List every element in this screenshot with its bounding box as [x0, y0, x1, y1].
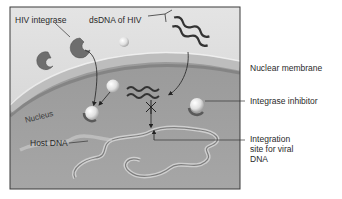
label-hiv-integrase: HIV integrase — [15, 15, 67, 25]
hiv-integrase-diagram: HIV integrase dsDNA of HIV Nuclear membr… — [0, 0, 342, 199]
label-integrase-inhibitor: Integrase inhibitor — [250, 96, 318, 106]
label-integration-site: Integration site for viral DNA — [250, 134, 293, 164]
inhibitor-ball — [107, 80, 120, 93]
label-dsdna-of-hiv: dsDNA of HIV — [89, 15, 141, 25]
inhibitor-ball — [119, 37, 129, 47]
integrase-inhibitor — [190, 98, 204, 112]
label-host-dna: Host DNA — [30, 138, 68, 148]
label-nuclear-membrane: Nuclear membrane — [250, 63, 322, 73]
